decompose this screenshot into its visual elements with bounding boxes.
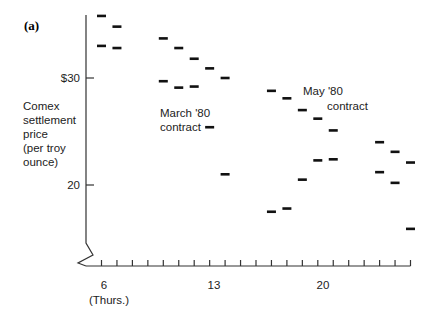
- annotation-march-contract: March '80 contract: [160, 107, 210, 133]
- may-contract-price-mark: [282, 207, 291, 210]
- may-contract-price-mark: [112, 47, 121, 50]
- y-axis-label-line: (per troy: [23, 142, 66, 154]
- may-contract-price-mark: [391, 182, 400, 185]
- y-axis: [78, 15, 94, 266]
- annotation-may-contract: May '80 contract: [303, 85, 369, 112]
- may-contract-price-mark: [159, 80, 168, 83]
- march-contract-price-mark: [221, 77, 230, 80]
- y-axis-label-line: price: [23, 128, 48, 140]
- may-contract-price-mark: [221, 173, 230, 176]
- may-contract-price-mark: [205, 126, 214, 129]
- march-contract-price-mark: [190, 57, 199, 60]
- y-tick-label-20: 20: [67, 179, 80, 191]
- march-contract-price-mark: [205, 67, 214, 70]
- may-contract-price-mark: [313, 159, 322, 162]
- march-contract-price-mark: [159, 37, 168, 40]
- x-tick-label-6: 6: [101, 279, 107, 291]
- annotation-line: contract: [327, 100, 369, 112]
- x-tick-label-20: 20: [317, 279, 330, 291]
- y-tick-label-30: $30: [61, 72, 80, 84]
- annotation-line: contract: [160, 121, 202, 133]
- may-contract-price-mark: [190, 85, 199, 88]
- may-contract-price-mark: [174, 86, 183, 89]
- x-axis: [86, 260, 411, 266]
- may-contract-price-mark: [406, 228, 415, 231]
- march-contract-price-mark: [267, 90, 276, 93]
- y-axis-label-line: Comex: [23, 100, 60, 112]
- march-contract-price-mark: [97, 15, 106, 18]
- may-contract-price-mark: [267, 210, 276, 213]
- march-contract-price-mark: [174, 47, 183, 50]
- panel-label: (a): [24, 18, 39, 33]
- march-contract-price-mark: [282, 97, 291, 100]
- may-contract-price-mark: [97, 45, 106, 48]
- x-tick-label-13: 13: [208, 279, 221, 291]
- march-contract-price-mark: [391, 151, 400, 154]
- march-contract-price-mark: [313, 117, 322, 120]
- march-contract-price-mark: [112, 25, 121, 28]
- y-axis-label-line: settlement: [23, 114, 77, 126]
- annotation-line: May '80: [303, 85, 343, 97]
- y-axis-label: Comex settlement price (per troy ounce): [23, 100, 77, 168]
- x-tick-sublabel-thurs: (Thurs.): [89, 294, 129, 306]
- price-marks: [97, 15, 415, 231]
- march-contract-price-mark: [375, 141, 384, 144]
- may-contract-price-mark: [329, 158, 338, 161]
- march-contract-price-mark: [329, 129, 338, 132]
- y-axis-label-line: ounce): [23, 156, 58, 168]
- may-contract-price-mark: [298, 178, 307, 181]
- may-contract-price-mark: [375, 171, 384, 174]
- march-contract-price-mark: [298, 109, 307, 112]
- march-contract-price-mark: [406, 161, 415, 164]
- annotation-line: March '80: [160, 107, 210, 119]
- futures-price-chart: (a) Comex settlement price (per troy oun…: [0, 0, 438, 324]
